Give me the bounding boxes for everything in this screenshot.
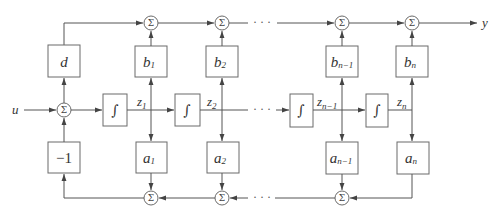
integrator-chain: u Σ ∫ z1 ∫ z2 · · · ∫ zn−1 ∫	[12, 78, 412, 141]
gain-box-an: an	[397, 142, 429, 174]
gain-box-a1: a1	[136, 142, 167, 173]
gain-box-bn-1: bn−1	[326, 46, 358, 77]
state-label-z2: z2	[206, 94, 217, 111]
feedback-row: Σ · · · Σ Σ	[64, 174, 412, 205]
integrator-n-1: ∫	[290, 94, 313, 127]
gain-box-d: d	[48, 45, 80, 77]
svg-text:Σ: Σ	[409, 18, 415, 28]
svg-text:d: d	[60, 54, 68, 70]
feedthrough-wire	[64, 23, 143, 45]
svg-text:∫: ∫	[111, 102, 118, 118]
svg-text:Σ: Σ	[219, 193, 225, 203]
gain-box-a2: a2	[207, 142, 239, 173]
state-label-z1: z1	[136, 94, 147, 111]
integrator-2: ∫	[175, 94, 200, 126]
svg-text:Σ: Σ	[148, 18, 154, 28]
gain-box-b2: b2	[206, 46, 238, 77]
gain-box-an-1: an−1	[326, 142, 358, 174]
sum-input: Σ	[57, 103, 71, 117]
svg-text:Σ: Σ	[219, 18, 225, 28]
output-gain-boxes: d b1 b2 bn−1 bn	[48, 31, 428, 103]
svg-text:∫: ∫	[183, 102, 190, 118]
gain-box-minus-1: −1	[48, 142, 80, 173]
middle-ellipsis: · · ·	[253, 102, 271, 116]
sum-bottom-1: Σ	[144, 191, 158, 205]
input-label-u: u	[12, 102, 19, 117]
svg-text:Σ: Σ	[148, 193, 154, 203]
sum-bottom-2: Σ	[215, 191, 229, 205]
top-ellipsis: · · ·	[253, 15, 271, 29]
integrator-n: ∫	[366, 94, 388, 127]
sum-top-1: Σ	[144, 16, 158, 30]
svg-text:−1: −1	[56, 150, 72, 166]
sum-top-n: Σ	[405, 16, 419, 30]
state-label-zn-1: zn−1	[316, 94, 337, 111]
output-row: · · · y Σ Σ Σ Σ	[64, 15, 488, 45]
svg-text:Σ: Σ	[339, 193, 345, 203]
sum-bottom-n-1: Σ	[335, 191, 349, 205]
state-label-zn: zn	[396, 94, 407, 111]
svg-text:∫: ∫	[373, 102, 380, 118]
gain-box-bn: bn	[396, 46, 428, 77]
svg-text:Σ: Σ	[339, 18, 345, 28]
sum-top-2: Σ	[215, 16, 229, 30]
block-diagram: · · · y Σ Σ Σ Σ d b1	[0, 0, 497, 215]
integrator-1: ∫	[103, 94, 127, 126]
output-label-y: y	[480, 15, 488, 30]
svg-text:∫: ∫	[297, 102, 304, 118]
svg-text:Σ: Σ	[61, 105, 67, 115]
sum-top-n-1: Σ	[335, 16, 349, 30]
feedback-gain-boxes: −1 a1 a2 an−1 an	[48, 118, 429, 190]
gain-box-b1: b1	[135, 46, 167, 77]
bottom-ellipsis: · · ·	[253, 190, 271, 204]
